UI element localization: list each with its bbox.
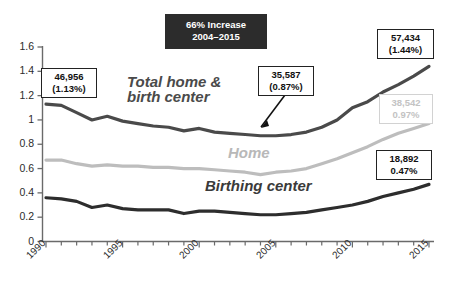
y-axis-label: 0 (0, 235, 34, 247)
callout-total-1990-value: 46,956 (54, 71, 83, 82)
callout-total-2015-percent: (1.44%) (382, 44, 429, 56)
callout-birth-2015: 18,892 0.47% (376, 150, 432, 180)
series-label-total: Total home & birth center (127, 74, 221, 104)
y-axis-label: 1.6 (0, 40, 34, 52)
callout-total-2004: 35,587 (0.87%) (258, 66, 314, 96)
x-axis-ticks (46, 242, 429, 248)
chart-figure: 66% Increase 2004–2015 46,956 (1.13%) 35… (0, 0, 455, 284)
series-label-birth: Birthing center (205, 178, 312, 193)
y-axis-label: 1 (0, 113, 34, 125)
callout-total-2015: 57,434 (1.44%) (377, 29, 434, 59)
callout-home-2015-percent: 0.97% (384, 109, 428, 121)
callout-birth-2015-value: 18,892 (389, 153, 418, 164)
callout-birth-2015-percent: 0.47% (381, 165, 427, 177)
callout-total-1990: 46,956 (1.13%) (41, 68, 97, 98)
y-axis-label: 0.4 (0, 186, 34, 198)
y-axis-label: 0.6 (0, 162, 34, 174)
callout-total-2004-value: 35,587 (271, 69, 300, 80)
series-line-total (46, 66, 429, 135)
title-line-2: 2004–2015 (192, 31, 240, 42)
callout-home-2015: 38,542 0.97% (379, 94, 433, 124)
callout-total-2015-value: 57,434 (391, 32, 420, 43)
y-axis-label: 0.2 (0, 210, 34, 222)
callout-total-1990-percent: (1.13%) (46, 83, 92, 95)
title-callout: 66% Increase 2004–2015 (165, 14, 267, 49)
series-label-home: Home (228, 145, 270, 160)
title-line-1: 66% Increase (186, 19, 246, 30)
y-axis-label: 1.2 (0, 89, 34, 101)
callout-total-2004-percent: (0.87%) (263, 81, 309, 93)
callout-home-2015-value: 38,542 (391, 97, 420, 108)
callout-leader-lines (261, 95, 285, 128)
y-axis-label: 1.4 (0, 64, 34, 76)
y-axis-label: 0.8 (0, 137, 34, 149)
series-label-total-line2: birth center (127, 88, 210, 105)
